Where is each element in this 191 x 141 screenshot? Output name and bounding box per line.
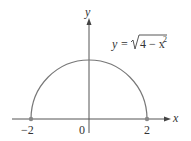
- tick-label-0: 0: [79, 123, 85, 137]
- semicircle-graph: y x −2 0 2 y = 4 − x 2: [0, 0, 191, 141]
- equation-lhs: y =: [111, 37, 128, 51]
- point-2: [145, 117, 149, 121]
- x-axis-arrow-icon: [164, 117, 171, 122]
- tick-label-2: 2: [144, 123, 150, 137]
- y-axis-arrow-icon: [87, 18, 92, 25]
- x-axis-label: x: [172, 111, 179, 125]
- tick-label-neg2: −2: [21, 123, 34, 137]
- y-axis-label: y: [84, 5, 91, 19]
- equation-radicand: 4 − x: [140, 37, 165, 51]
- point-neg2: [29, 117, 33, 121]
- equation-exponent: 2: [163, 35, 167, 44]
- equation: y = 4 − x 2: [111, 35, 167, 51]
